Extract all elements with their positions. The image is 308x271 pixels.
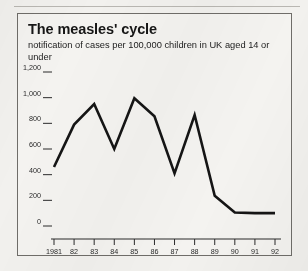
x-axis-tick-label: 90 xyxy=(231,247,239,256)
x-axis-tick-label: 88 xyxy=(191,247,199,256)
y-axis-tick-label: 800 xyxy=(29,114,41,123)
y-axis-tick-label: 400 xyxy=(29,165,41,174)
figure-background: The measles' cycle notification of cases… xyxy=(0,0,308,271)
y-axis-tick-label: 0 xyxy=(37,217,41,226)
top-divider-rule xyxy=(14,6,300,7)
x-axis-tick-label: 92 xyxy=(271,247,279,256)
y-axis-tick-label: 600 xyxy=(29,140,41,149)
x-axis-tick-label: 82 xyxy=(70,247,78,256)
line-chart-svg xyxy=(18,14,293,257)
x-axis-tick-label: 84 xyxy=(110,247,118,256)
x-axis-tick-label: 86 xyxy=(150,247,158,256)
x-axis-tick-label: 89 xyxy=(211,247,219,256)
plot-area: 02004006008001,0001,20019818283848586878… xyxy=(18,14,293,257)
chart-panel: The measles' cycle notification of cases… xyxy=(17,13,292,256)
x-axis-tick-label: 87 xyxy=(171,247,179,256)
x-axis-tick-label: 85 xyxy=(130,247,138,256)
y-axis-tick-label: 1,200 xyxy=(23,63,41,72)
y-axis-tick-label: 1,000 xyxy=(23,88,41,97)
x-axis-tick-label: 1981 xyxy=(46,247,62,256)
x-axis-tick-label: 91 xyxy=(251,247,259,256)
x-axis-tick-label: 83 xyxy=(90,247,98,256)
y-axis-tick-label: 200 xyxy=(29,191,41,200)
